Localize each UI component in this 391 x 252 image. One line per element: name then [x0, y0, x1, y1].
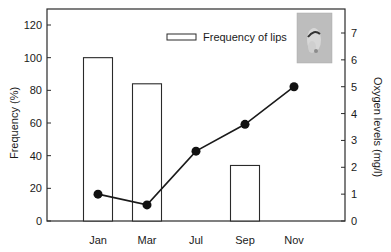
- x-tick-label: Jul: [189, 234, 203, 246]
- inset-fish-photo: [297, 13, 332, 63]
- left-axis-label: Frequency (%): [8, 87, 20, 159]
- oxygen-point-nov: [290, 82, 299, 91]
- left-tick-label: 0: [36, 215, 42, 227]
- x-axis: JanMarJulSepNov: [89, 234, 304, 246]
- left-tick-label: 40: [30, 150, 42, 162]
- line-series-oxygen-levels: [94, 82, 299, 209]
- right-tick-label: 1: [351, 188, 357, 200]
- right-tick-label: 4: [351, 108, 357, 120]
- oxygen-point-sep: [241, 120, 250, 129]
- oxygen-point-jan: [94, 190, 103, 199]
- right-tick-label: 5: [351, 81, 357, 93]
- right-tick-label: 0: [351, 215, 357, 227]
- right-tick-label: 6: [351, 54, 357, 66]
- right-y-axis: 01234567: [341, 27, 357, 227]
- x-tick-label: Sep: [235, 234, 255, 246]
- right-axis-label: Oxygen levels (mg/l): [372, 77, 384, 177]
- legend-bar-swatch: [167, 34, 196, 40]
- right-tick-label: 2: [351, 161, 357, 173]
- x-tick-label: Nov: [284, 234, 304, 246]
- oxygen-point-jul: [192, 147, 201, 156]
- legend-label: Frequency of lips: [203, 31, 287, 43]
- bar-sep: [231, 165, 260, 221]
- oxygen-line: [98, 87, 294, 205]
- right-tick-label: 7: [351, 27, 357, 39]
- left-tick-label: 60: [30, 117, 42, 129]
- x-tick-label: Mar: [138, 234, 157, 246]
- right-tick-label: 3: [351, 134, 357, 146]
- chart: 020406080100120 01234567 JanMarJulSepNov…: [0, 0, 391, 252]
- left-tick-label: 20: [30, 182, 42, 194]
- x-tick-label: Jan: [89, 234, 107, 246]
- left-tick-label: 100: [24, 52, 42, 64]
- oxygen-point-mar: [143, 200, 152, 209]
- left-tick-label: 80: [30, 84, 42, 96]
- legend: Frequency of lips: [167, 31, 287, 43]
- left-tick-label: 120: [24, 19, 42, 31]
